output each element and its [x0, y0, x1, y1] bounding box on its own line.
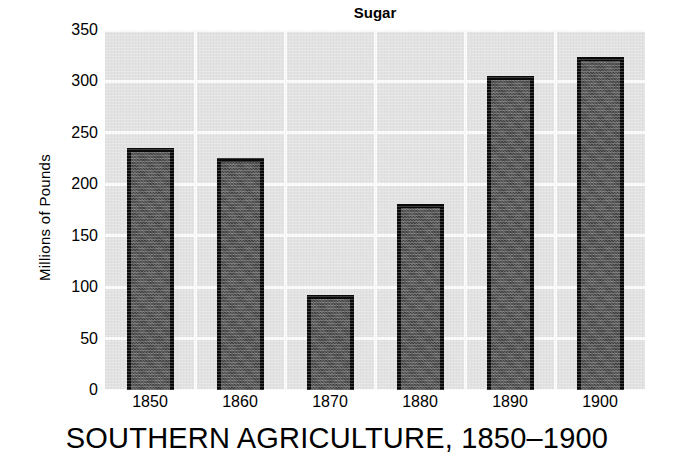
bar — [577, 57, 624, 390]
x-axis-tick-label: 1890 — [465, 392, 555, 412]
y-axis-tick-label: 150 — [38, 228, 98, 244]
y-axis-tick-label: 50 — [38, 331, 98, 347]
bar — [127, 148, 174, 390]
x-axis-tick-label: 1850 — [105, 392, 195, 412]
chart-title: Sugar — [105, 4, 645, 22]
x-axis-tick-label: 1860 — [195, 392, 285, 412]
sugar-bar-chart-figure: Sugar Millions of Pounds 050100150200250… — [0, 0, 674, 459]
plot-area — [105, 30, 645, 390]
x-axis-tick-labels: 185018601870188018901900 — [105, 392, 645, 416]
bar — [397, 204, 444, 390]
figure-caption: SOUTHERN AGRICULTURE, 1850–1900 — [0, 421, 674, 455]
x-axis-tick-label: 1870 — [285, 392, 375, 412]
grid-line-vertical — [374, 30, 377, 390]
y-axis-tick-label: 0 — [38, 382, 98, 398]
bar — [487, 76, 534, 390]
y-axis-tick-label: 300 — [38, 73, 98, 89]
y-axis-tick-label: 100 — [38, 279, 98, 295]
grid-line-vertical — [464, 30, 467, 390]
bar — [217, 158, 264, 390]
bar — [307, 295, 354, 390]
y-axis-tick-label: 350 — [38, 22, 98, 38]
grid-line-vertical — [554, 30, 557, 390]
grid-line-vertical — [284, 30, 287, 390]
x-axis-tick-label: 1880 — [375, 392, 465, 412]
x-axis-tick-label: 1900 — [555, 392, 645, 412]
grid-line-vertical — [194, 30, 197, 390]
y-axis-tick-label: 200 — [38, 176, 98, 192]
y-axis-tick-label: 250 — [38, 125, 98, 141]
y-axis-tick-labels: 050100150200250300350 — [30, 30, 98, 390]
